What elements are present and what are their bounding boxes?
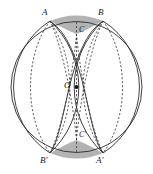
solid-arc-a-bprime <box>14 21 50 153</box>
dashed-arc-b-sweep <box>103 21 123 153</box>
label-point-a: A <box>42 8 48 17</box>
label-point-c-prime: C' <box>79 131 86 139</box>
solid-arc-b-aprime <box>103 21 139 153</box>
geometry-figure: A B C O C' B' A' <box>0 0 153 174</box>
center-dot <box>75 85 79 89</box>
label-point-c: C <box>79 26 84 34</box>
dashed-arc-outer-right <box>83 21 103 153</box>
figure-canvas <box>0 0 153 174</box>
label-point-b: B <box>98 8 104 17</box>
label-point-o: O <box>64 81 71 90</box>
dashed-arc-b-cprime <box>77 21 104 140</box>
label-point-a-prime: A' <box>96 156 103 165</box>
dashed-arc-a-sweep <box>31 21 51 153</box>
label-point-b-prime: B' <box>40 156 47 165</box>
